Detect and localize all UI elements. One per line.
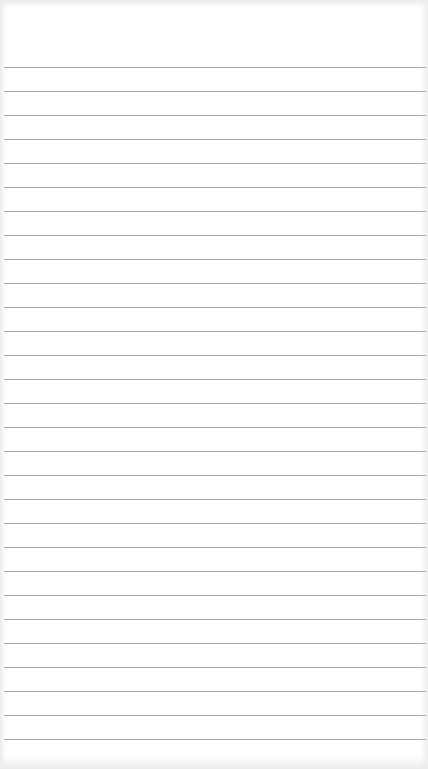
ruled-line [4, 211, 426, 212]
ruled-line [4, 115, 426, 116]
ruled-line [4, 187, 426, 188]
ruled-line [4, 331, 426, 332]
ruled-line [4, 571, 426, 572]
ruled-line [4, 283, 426, 284]
ruled-line [4, 379, 426, 380]
ruled-line [4, 67, 426, 68]
ruled-line [4, 619, 426, 620]
ruled-line [4, 355, 426, 356]
ruled-line [4, 739, 426, 740]
ruled-line [4, 403, 426, 404]
ruled-line [4, 667, 426, 668]
ruled-line [4, 139, 426, 140]
ruled-line [4, 523, 426, 524]
ruled-line [4, 259, 426, 260]
ruled-line [4, 499, 426, 500]
top-shadow [0, 0, 428, 8]
ruled-line [4, 691, 426, 692]
ruled-line [4, 163, 426, 164]
lined-paper [0, 0, 428, 769]
ruled-line [4, 91, 426, 92]
ruled-line [4, 595, 426, 596]
ruled-line [4, 475, 426, 476]
ruled-line [4, 235, 426, 236]
ruled-line [4, 715, 426, 716]
ruled-line [4, 451, 426, 452]
ruled-line [4, 427, 426, 428]
ruled-line [4, 643, 426, 644]
ruled-line [4, 307, 426, 308]
ruled-line [4, 547, 426, 548]
bottom-shadow [0, 755, 428, 769]
